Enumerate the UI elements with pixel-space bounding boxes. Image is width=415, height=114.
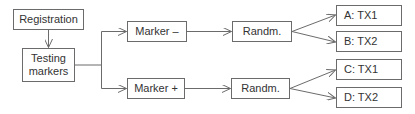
node-randomization-positive-label: Randm.: [241, 82, 280, 95]
node-testing-markers: Testing markers: [22, 48, 75, 82]
node-arm-c: C: TX1: [336, 59, 402, 80]
node-marker-positive: Marker +: [127, 78, 185, 99]
node-registration-label: Registration: [19, 13, 78, 26]
node-arm-d: D: TX2: [336, 87, 402, 108]
node-marker-negative-label: Marker –: [135, 25, 178, 38]
node-marker-positive-label: Marker +: [134, 82, 178, 95]
node-testing-markers-line2: markers: [29, 65, 69, 78]
node-arm-a-label: A: TX1: [344, 9, 377, 22]
node-arm-b-label: B: TX2: [344, 35, 377, 48]
node-randomization-positive: Randm.: [231, 78, 290, 99]
node-arm-b: B: TX2: [336, 31, 402, 52]
node-arm-c-label: C: TX1: [344, 63, 378, 76]
flowchart-canvas: Registration Testing markers Marker – Ma…: [0, 0, 415, 114]
edge-randm-pos-d: [290, 89, 336, 99]
node-testing-markers-line1: Testing: [31, 52, 66, 65]
node-randomization-negative: Randm.: [232, 21, 292, 42]
edge-randm-pos-c: [290, 70, 336, 89]
node-registration: Registration: [13, 9, 84, 30]
node-marker-negative: Marker –: [127, 21, 187, 42]
edge-randm-neg-a: [292, 15, 336, 32]
node-arm-a: A: TX1: [336, 5, 402, 26]
edge-randm-neg-b: [292, 32, 336, 43]
node-arm-d-label: D: TX2: [344, 91, 378, 104]
node-randomization-negative-label: Randm.: [243, 25, 282, 38]
